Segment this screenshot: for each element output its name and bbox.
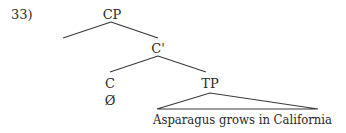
edge-cbar-tp [158,56,206,72]
node-c-bar: C' [151,41,165,56]
node-tp: TP [201,76,219,91]
edge-cbar-c [110,56,158,72]
node-c: C [105,76,115,91]
syntax-tree: 33) CP C' C Ø TP Asparagus grows in Cali… [0,0,346,133]
tp-terminal-string: Asparagus grows in California [152,112,332,127]
tp-triangle [157,93,318,109]
node-cp: CP [103,7,122,22]
example-number: 33) [11,7,33,22]
edge-cp-specifier [63,22,111,38]
edge-cp-cbar [111,22,158,38]
node-c-null: Ø [105,93,116,108]
